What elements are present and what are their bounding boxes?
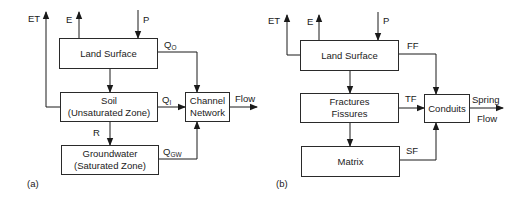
channel-label-line2: Network bbox=[190, 107, 225, 119]
panel-b-tag: (b) bbox=[276, 178, 288, 189]
fractures-label-line1: Fractures bbox=[329, 96, 369, 108]
matrix-label: Matrix bbox=[338, 156, 364, 168]
groundwater-label-line1: Groundwater bbox=[83, 148, 138, 160]
r-label-a: R bbox=[93, 127, 100, 138]
conduits-box-b: Conduits bbox=[424, 94, 470, 123]
p-label-a: P bbox=[143, 14, 149, 25]
flow-label-a: Flow bbox=[235, 93, 255, 104]
et-arrow-a bbox=[46, 12, 60, 107]
p-label-b: P bbox=[383, 15, 389, 26]
fractures-fissures-box-b: Fractures Fissures bbox=[300, 93, 399, 123]
spring-label-b: Spring bbox=[472, 94, 499, 105]
ff-arrow-b bbox=[398, 54, 436, 94]
tf-label-b: TF bbox=[405, 93, 417, 104]
e-label-a: E bbox=[66, 14, 72, 25]
qgw-label-a: QGW bbox=[163, 146, 182, 160]
soil-box-a: Soil (Unsaturated Zone) bbox=[60, 92, 158, 122]
conduits-label: Conduits bbox=[428, 103, 466, 115]
et-arrow-b bbox=[287, 15, 300, 55]
flow-label-b: Flow bbox=[477, 113, 497, 124]
ff-label-b: FF bbox=[407, 40, 419, 51]
et-label-a: ET bbox=[28, 13, 40, 24]
soil-label-line2: (Unsaturated Zone) bbox=[68, 107, 150, 119]
channel-network-box-a: Channel Network bbox=[185, 92, 230, 122]
groundwater-label-line2: (Saturated Zone) bbox=[74, 160, 146, 172]
fractures-label-line2: Fissures bbox=[332, 108, 368, 120]
soil-label-line1: Soil bbox=[101, 95, 117, 107]
groundwater-box-a: Groundwater (Saturated Zone) bbox=[61, 145, 159, 175]
qo-label-a: QO bbox=[164, 39, 176, 53]
land-surface-box-a: Land Surface bbox=[59, 38, 158, 69]
qo-arrow-a bbox=[157, 52, 197, 92]
land-surface-label-a: Land Surface bbox=[80, 48, 137, 60]
qi-label-a: QI bbox=[162, 94, 171, 108]
panel-a-tag: (a) bbox=[27, 178, 39, 189]
e-label-b: E bbox=[307, 16, 313, 27]
land-surface-label-b: Land Surface bbox=[321, 50, 378, 62]
land-surface-box-b: Land Surface bbox=[300, 40, 399, 71]
matrix-box-b: Matrix bbox=[301, 146, 400, 177]
channel-label-line1: Channel bbox=[190, 95, 225, 107]
et-label-b: ET bbox=[268, 15, 280, 26]
sf-label-b: SF bbox=[406, 145, 418, 156]
